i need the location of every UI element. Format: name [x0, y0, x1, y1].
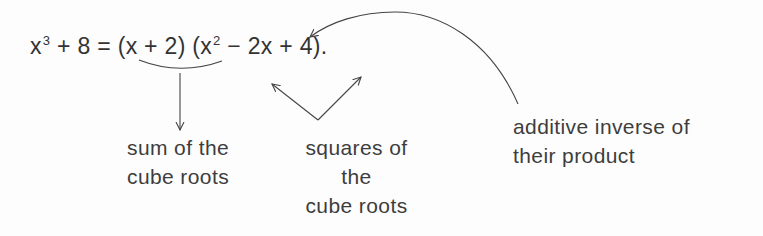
arrow-up-left-icon	[272, 84, 318, 120]
label-squares-of-cube-roots: squares of the cube roots	[296, 133, 417, 220]
label-line: cube roots	[296, 191, 417, 220]
label-line: sum of the	[127, 133, 229, 162]
label-line: squares of	[296, 133, 417, 162]
arrow-up-right-icon	[318, 77, 361, 120]
label-line: their product	[513, 141, 690, 170]
label-line: the	[296, 162, 417, 191]
underbrace-curve	[139, 60, 222, 68]
label-additive-inverse: additive inverse of their product	[513, 112, 690, 170]
curved-arrow-icon	[310, 12, 518, 104]
label-line: additive inverse of	[513, 112, 690, 141]
label-sum-of-cube-roots: sum of the cube roots	[127, 133, 229, 191]
label-line: cube roots	[127, 162, 229, 191]
